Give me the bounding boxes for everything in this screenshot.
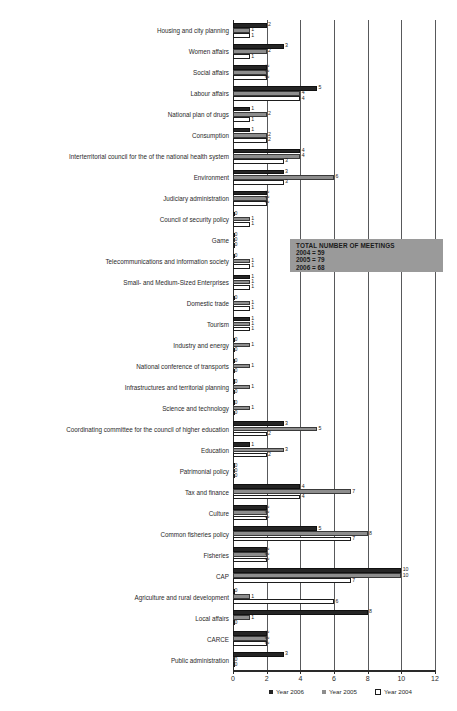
- bar-2006: [233, 65, 267, 70]
- bar-value-label: 0: [234, 211, 237, 216]
- bar-value-label: 1: [251, 285, 254, 290]
- category-label: Patrimonial policy: [0, 467, 229, 474]
- bar-value-label: 1: [251, 384, 254, 389]
- bar-value-label: 0: [234, 369, 237, 374]
- category-label: Science and technology: [0, 404, 229, 411]
- bar-2004: [233, 453, 267, 458]
- bar-2006: [233, 23, 267, 28]
- gridline-12: [435, 20, 436, 670]
- bar-2006: [233, 44, 284, 49]
- category-axis-labels: Housing and city planningWomen affairsSo…: [0, 20, 229, 670]
- bar-value-label: 1: [251, 615, 254, 620]
- x-tick-label-10: 10: [397, 675, 405, 682]
- bar-value-label: 2: [268, 431, 271, 436]
- category-label: Public administration: [0, 656, 229, 663]
- bar-value-label: 1: [251, 327, 254, 332]
- bar-value-label: 5: [319, 526, 322, 531]
- legend-label-2006: Year 2006: [276, 688, 304, 695]
- bar-value-label: 6: [335, 175, 338, 180]
- bar-value-label: 3: [285, 652, 288, 657]
- category-label: Game: [0, 237, 229, 244]
- bar-2004: [233, 159, 284, 164]
- bar-value-label: 1: [251, 342, 254, 347]
- legend-label-2004: Year 2004: [384, 688, 412, 695]
- bar-value-label: 1: [251, 264, 254, 269]
- bar-value-label: 3: [285, 44, 288, 49]
- bar-2005: [233, 175, 334, 180]
- bar-2006: [233, 275, 250, 280]
- bar-value-label: 0: [234, 295, 237, 300]
- bar-chart: Housing and city planningWomen affairsSo…: [0, 0, 457, 711]
- category-label: Industry and energy: [0, 342, 229, 349]
- x-tick-label-4: 4: [298, 675, 302, 682]
- bar-2004: [233, 180, 284, 185]
- bar-2005: [233, 154, 300, 159]
- bar-value-label: 5: [319, 86, 322, 91]
- bar-value-label: 2: [266, 636, 271, 639]
- bar-2004: [233, 54, 250, 59]
- category-label: Small- and Medium-Sized Enterprises: [0, 279, 229, 286]
- bar-2005: [233, 301, 250, 306]
- bar-value-label: 2: [268, 23, 271, 28]
- bar-value-label: 4: [302, 484, 305, 489]
- category-label: Judiciary administration: [0, 195, 229, 202]
- bar-value-label: 2: [266, 641, 271, 644]
- bar-2006: [233, 505, 267, 510]
- bar-2006: [233, 484, 300, 489]
- bar-2005: [233, 196, 267, 201]
- bar-value-label: 7: [352, 489, 355, 494]
- legend-item-year-2004: Year 2004: [375, 688, 412, 695]
- bar-value-label: 2: [268, 49, 271, 54]
- category-label: Telecommunications and information socie…: [0, 258, 229, 265]
- category-label: Culture: [0, 509, 229, 516]
- bar-value-label: 1: [251, 222, 254, 227]
- bar-value-label: 3: [285, 159, 288, 164]
- bar-2006: [233, 631, 267, 636]
- category-label: Domestic trade: [0, 300, 229, 307]
- category-label: Environment: [0, 174, 229, 181]
- bar-value-label: 0: [234, 662, 237, 667]
- bar-2004: [233, 222, 250, 227]
- bar-2006: [233, 526, 317, 531]
- bar-value-label: 0: [234, 358, 237, 363]
- legend-label-2005: Year 2005: [329, 688, 357, 695]
- bar-2006: [233, 149, 300, 154]
- bar-value-label: 2: [266, 547, 271, 550]
- bar-2005: [233, 552, 267, 557]
- bar-2005: [233, 133, 267, 138]
- category-label: Coordinating committee for the council o…: [0, 425, 229, 432]
- bar-value-label: 3: [285, 421, 288, 426]
- bar-value-label: 7: [352, 536, 355, 541]
- bar-value-label: 3: [285, 447, 288, 452]
- bar-value-label: 4: [302, 494, 305, 499]
- bar-2006: [233, 421, 284, 426]
- x-tick-0: [233, 670, 234, 674]
- bar-value-label: 4: [302, 154, 305, 159]
- category-label: Agriculture and rural development: [0, 593, 229, 600]
- bar-2005: [233, 448, 284, 453]
- legend-item-year-2005: Year 2005: [322, 688, 357, 695]
- bar-value-label: 7: [352, 578, 355, 583]
- bar-2005: [233, 217, 250, 222]
- bar-2004: [233, 432, 267, 437]
- bar-value-label: 2: [266, 510, 271, 513]
- bar-value-label: 1: [251, 128, 254, 133]
- bar-2005: [233, 112, 267, 117]
- category-label: CAP: [0, 572, 229, 579]
- bar-value-label: 2: [268, 138, 271, 143]
- annotation-line-1: 2005 = 79: [296, 256, 443, 263]
- annotation-line-0: 2004 = 59: [296, 249, 443, 256]
- bar-value-label: 2: [266, 75, 271, 78]
- bar-2004: [233, 641, 267, 646]
- bar-value-label: 3: [285, 169, 288, 174]
- bar-2004: [233, 327, 250, 332]
- bar-value-label: 6: [335, 599, 338, 604]
- bar-value-label: 2: [266, 552, 271, 555]
- x-tick-label-8: 8: [366, 675, 370, 682]
- bar-2006: [233, 547, 267, 552]
- bar-value-label: 0: [234, 379, 237, 384]
- total-meetings-annotation: TOTAL NUMBER OF MEETINGS 2004 = 59 2005 …: [290, 239, 443, 272]
- bar-2005: [233, 636, 267, 641]
- bar-value-label: 1: [251, 306, 254, 311]
- bar-value-label: 2: [266, 196, 271, 199]
